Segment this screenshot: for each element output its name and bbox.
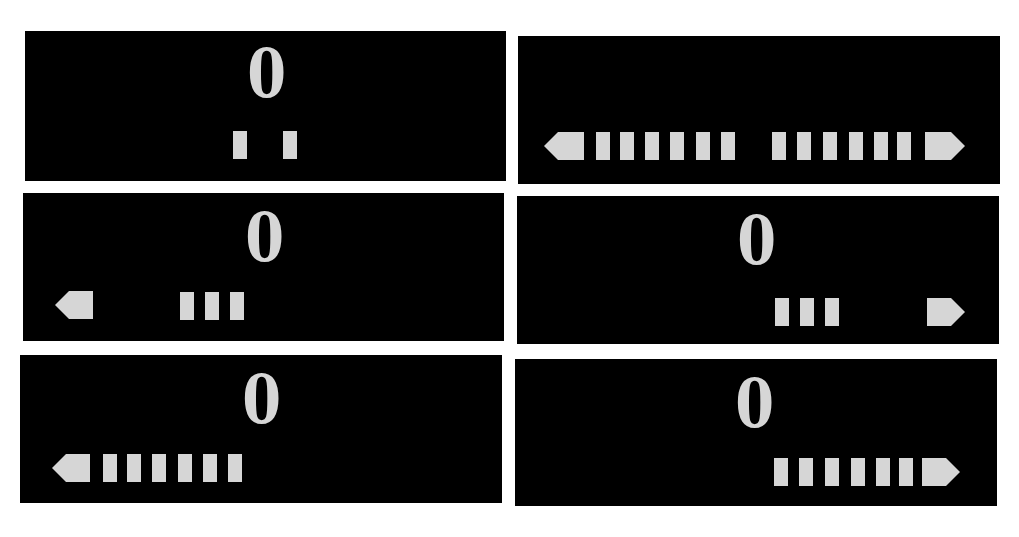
indicator-bar (874, 132, 888, 160)
panel-bottom-right: 0 (515, 359, 997, 506)
indicator-bar (180, 292, 194, 320)
indicator-bar (799, 458, 813, 486)
left-arrow-icon (55, 291, 93, 319)
indicator-bar (103, 454, 117, 482)
panel-top-right (518, 36, 1000, 184)
indicator-bar (203, 454, 217, 482)
indicator-bar (233, 131, 247, 159)
indicator-bar (670, 132, 684, 160)
indicator-bar (696, 132, 710, 160)
indicator-bar (772, 132, 786, 160)
indicator-panel-grid: 0 0 0 (0, 0, 1019, 537)
left-arrow-icon (544, 132, 584, 160)
indicator-bar (851, 458, 865, 486)
indicator-bar (825, 458, 839, 486)
panel-middle-left: 0 (23, 193, 504, 341)
panel-digit: 0 (245, 203, 283, 271)
panel-digit: 0 (735, 369, 773, 437)
panel-digit: 0 (737, 206, 775, 274)
indicator-bar (774, 458, 788, 486)
indicator-bar (283, 131, 297, 159)
indicator-bar (800, 298, 814, 326)
indicator-bar (849, 132, 863, 160)
indicator-bar (897, 132, 911, 160)
panel-digit: 0 (242, 365, 280, 433)
indicator-bar (228, 454, 242, 482)
indicator-bar (178, 454, 192, 482)
indicator-bar (876, 458, 890, 486)
panel-digit: 0 (247, 39, 285, 107)
left-arrow-icon (52, 454, 90, 482)
indicator-bar (721, 132, 735, 160)
right-arrow-icon (925, 132, 965, 160)
indicator-bar (152, 454, 166, 482)
right-arrow-icon (922, 458, 960, 486)
panel-top-left: 0 (25, 31, 506, 181)
indicator-bar (645, 132, 659, 160)
indicator-bar (230, 292, 244, 320)
indicator-bar (205, 292, 219, 320)
indicator-bar (127, 454, 141, 482)
panel-bottom-left: 0 (20, 355, 502, 503)
indicator-bar (596, 132, 610, 160)
indicator-bar (620, 132, 634, 160)
indicator-bar (823, 132, 837, 160)
indicator-bar (899, 458, 913, 486)
indicator-bar (797, 132, 811, 160)
right-arrow-icon (927, 298, 965, 326)
indicator-bar (775, 298, 789, 326)
panel-middle-right: 0 (517, 196, 999, 344)
indicator-bar (825, 298, 839, 326)
